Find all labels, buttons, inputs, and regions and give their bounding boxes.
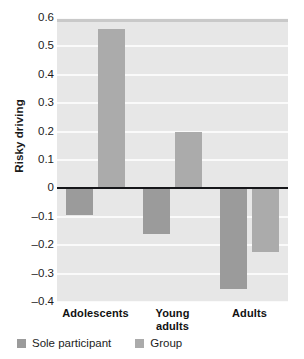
zero-baseline [57,187,288,189]
bar-adolescents-sole-participant [66,188,93,215]
gridline [57,159,288,161]
legend-label: Group [150,337,182,349]
y-tick-label: –0.4 [8,296,54,307]
y-tick-label: 0.1 [8,154,54,165]
y-tick-label: –0.3 [8,268,54,279]
gridline [57,131,288,133]
y-tick-label: –0.1 [8,211,54,222]
y-tick-label: 0.4 [8,69,54,80]
y-tick-label: 0.6 [8,12,54,23]
gridline [57,45,288,47]
bar-adolescents-group [98,29,125,188]
chart-legend: Sole participant Group [17,336,182,350]
legend-item-sole-participant: Sole participant [17,337,111,349]
x-tick-label-line: adults [123,320,223,333]
bar-adults-sole-participant [220,188,247,289]
gridline [57,301,288,302]
gridline [57,273,288,275]
y-tick-label: 0.5 [8,40,54,51]
x-tick-label: Adults [200,307,300,320]
legend-label: Sole participant [32,337,111,349]
legend-spacer [111,343,135,344]
y-tick-label: –0.2 [8,239,54,250]
risky-driving-bar-chart: Risky driving 0.60.50.40.30.20.10–0.1–0.… [0,0,304,359]
y-tick-label: 0.2 [8,126,54,137]
plot-area [57,18,288,302]
legend-swatch-icon [135,339,144,348]
bar-adults-group [252,188,279,252]
legend-item-group: Group [135,337,182,349]
gridline [57,18,288,19]
bar-young-adults-group [175,132,202,189]
gridline [57,102,288,104]
y-tick-label: 0 [8,182,54,193]
legend-swatch-icon [17,339,26,348]
x-tick-label-line: Adults [200,307,300,320]
gridline [57,74,288,76]
bar-young-adults-sole-participant [143,188,170,233]
y-tick-label: 0.3 [8,97,54,108]
